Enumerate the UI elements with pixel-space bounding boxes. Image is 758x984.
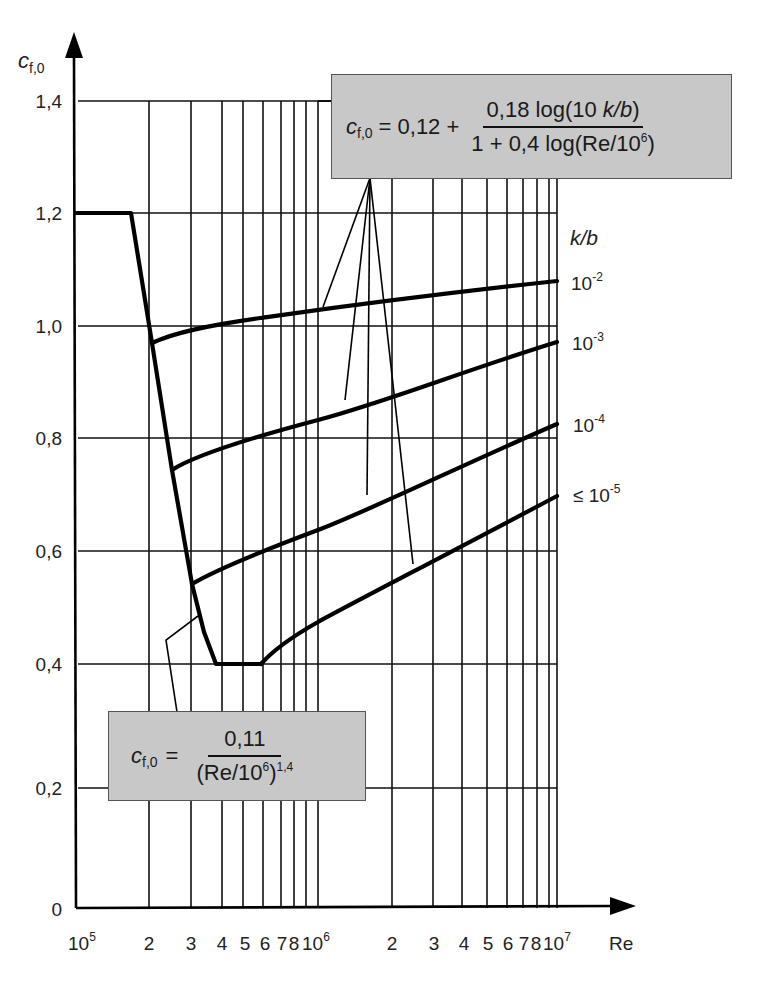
formula-numerator: 0,18 log(10 k/b) xyxy=(483,97,644,128)
y-tick-labels: 1,4 1,2 1,0 0,8 0,6 0,4 0,2 0 xyxy=(36,91,63,920)
formula-equals: = xyxy=(166,743,179,769)
svg-text:4: 4 xyxy=(217,933,228,954)
svg-text:0,4: 0,4 xyxy=(36,654,63,675)
svg-text:105: 105 xyxy=(68,930,96,954)
svg-text:0,8: 0,8 xyxy=(36,428,62,449)
svg-text:4: 4 xyxy=(459,933,470,954)
svg-text:5: 5 xyxy=(483,933,494,954)
formula-fraction: 0,11 (Re/106)1,4 xyxy=(192,726,297,786)
x-axis xyxy=(76,906,612,908)
legend-entry-1e-5: ≤ 10-5 xyxy=(573,482,621,506)
svg-text:1,0: 1,0 xyxy=(36,316,62,337)
formula-lhs: cf,0 xyxy=(346,114,373,140)
svg-text:1,2: 1,2 xyxy=(36,203,62,224)
formula-denominator: (Re/106)1,4 xyxy=(192,757,297,786)
formula-numerator: 0,11 xyxy=(208,726,281,757)
svg-text:2: 2 xyxy=(144,933,155,954)
x-axis-label: Re xyxy=(609,933,633,954)
legend-entry-1e-4: 10-4 xyxy=(573,412,605,436)
svg-text:3: 3 xyxy=(186,933,197,954)
formula-equals: = 0,12 + xyxy=(379,114,460,140)
svg-text:107: 107 xyxy=(543,930,571,954)
legend-title: k/b xyxy=(570,226,598,249)
y-axis-arrow-icon xyxy=(65,32,83,58)
svg-text:8: 8 xyxy=(531,933,542,954)
svg-text:0,6: 0,6 xyxy=(36,541,62,562)
svg-text:0: 0 xyxy=(51,899,62,920)
y-axis-label: cf,0 xyxy=(18,48,45,76)
svg-text:7: 7 xyxy=(277,933,288,954)
formula-box-rough: cf,0 = 0,12 + 0,18 log(10 k/b) 1 + 0,4 l… xyxy=(331,74,732,179)
formula-fraction: 0,18 log(10 k/b) 1 + 0,4 log(Re/106) xyxy=(467,97,658,157)
formula-box-smooth: cf,0 = 0,11 (Re/106)1,4 xyxy=(108,711,366,801)
y-axis xyxy=(74,58,76,908)
svg-text:2: 2 xyxy=(387,933,398,954)
svg-text:6: 6 xyxy=(260,933,271,954)
legend-entry-1e-2: 10-2 xyxy=(571,270,603,294)
svg-text:5: 5 xyxy=(240,933,251,954)
svg-text:106: 106 xyxy=(302,930,330,954)
svg-text:1,4: 1,4 xyxy=(36,91,63,112)
legend-entry-1e-3: 10-3 xyxy=(572,330,604,354)
curve-kb-1e-4 xyxy=(192,424,557,584)
formula-lhs: cf,0 xyxy=(131,743,158,769)
svg-text:8: 8 xyxy=(289,933,300,954)
svg-text:7: 7 xyxy=(519,933,530,954)
svg-text:6: 6 xyxy=(503,933,514,954)
svg-text:0,2: 0,2 xyxy=(36,778,62,799)
x-axis-arrow-icon xyxy=(610,897,636,915)
svg-text:3: 3 xyxy=(429,933,440,954)
formula-denominator: 1 + 0,4 log(Re/106) xyxy=(467,128,658,157)
legend: k/b 10-2 10-3 10-4 ≤ 10-5 xyxy=(570,226,621,506)
x-tick-labels: 105 2 3 4 5 6 7 8 106 2 3 4 5 6 7 8 107 xyxy=(68,930,571,954)
